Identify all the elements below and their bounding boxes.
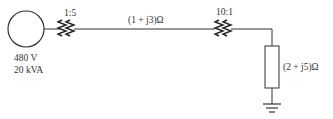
transformer-2-icon <box>215 20 231 36</box>
load-impedance-label: (2 + j5)Ω <box>283 62 319 73</box>
transformer-1-ratio: 1:5 <box>64 8 76 18</box>
generator-icon <box>8 11 44 47</box>
wire <box>231 29 272 46</box>
transformer-1-icon <box>58 20 74 36</box>
source-voltage-label: 480 V <box>14 53 37 63</box>
source-rating-label: 20 kVA <box>14 65 43 75</box>
ground-icon <box>263 104 281 112</box>
load-impedance-icon <box>265 46 279 88</box>
transformer-2-ratio: 10:1 <box>216 7 233 17</box>
line-impedance-label: (1 + j3)Ω <box>128 15 164 26</box>
circuit-diagram: 1:5 (1 + j3)Ω 10:1 (2 + j5)Ω 480 V 20 kV… <box>0 0 333 119</box>
